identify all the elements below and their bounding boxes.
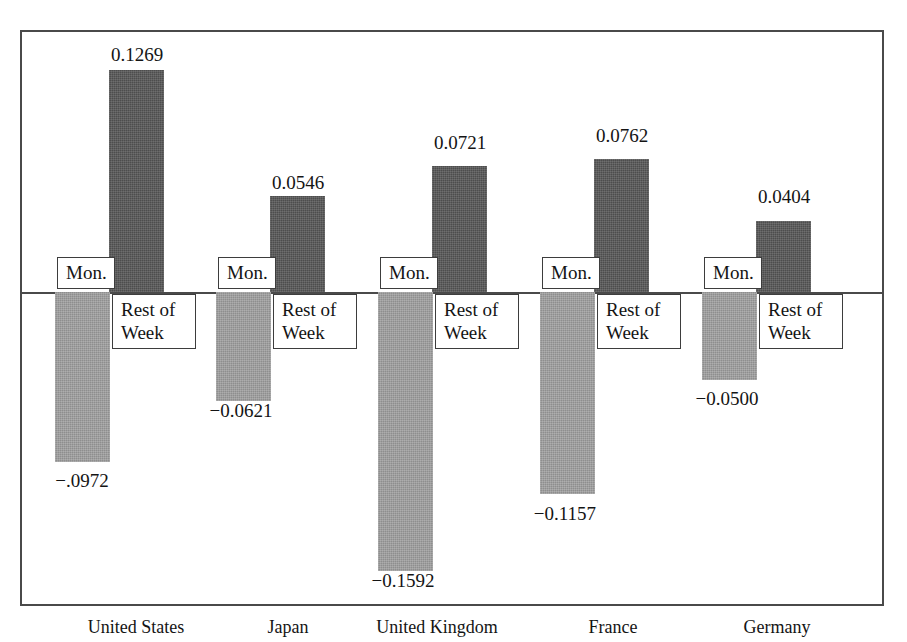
series-label-rest-of-week-3: Rest of Week [435,294,519,349]
value-label-rest-of-week-1: 0.1269 [82,44,192,66]
bar-monday-4 [540,292,595,494]
value-label-monday-4: −0.1157 [510,503,620,525]
category-label-3: United Kingdom [337,616,537,638]
bar-rest-of-week-3 [432,166,487,292]
value-label-monday-5: −0.0500 [672,388,782,410]
bar-monday-2 [216,292,271,401]
value-label-monday-2: −0.0621 [186,400,296,422]
value-label-rest-of-week-2: 0.0546 [243,172,353,194]
series-label-monday-5: Mon. [704,257,762,289]
value-label-rest-of-week-5: 0.0404 [729,186,839,208]
bar-rest-of-week-5 [756,221,811,292]
bar-monday-3 [378,292,433,571]
series-label-rest-of-week-5: Rest of Week [759,294,843,349]
figure-title-fragment [250,0,670,8]
bar-chart-figure: −.09720.1269Mon.Rest of Week−0.06210.054… [0,0,907,642]
bar-rest-of-week-1 [109,70,164,292]
value-label-rest-of-week-4: 0.0762 [567,125,677,147]
category-label-4: France [548,616,678,638]
bar-rest-of-week-2 [270,196,325,292]
bar-rest-of-week-4 [594,159,649,292]
category-label-2: Japan [228,616,348,638]
series-label-rest-of-week-1: Rest of Week [112,294,196,349]
category-label-1: United States [56,616,216,638]
value-label-monday-1: −.0972 [27,470,137,492]
series-label-monday-4: Mon. [542,257,600,289]
value-label-rest-of-week-3: 0.0721 [405,132,515,154]
series-label-monday-3: Mon. [380,257,438,289]
series-label-rest-of-week-2: Rest of Week [273,294,357,349]
category-label-5: Germany [702,616,852,638]
bar-monday-5 [702,292,757,380]
series-label-monday-1: Mon. [57,257,115,289]
series-label-monday-2: Mon. [218,257,276,289]
bar-monday-1 [55,292,110,462]
value-label-monday-3: −0.1592 [348,570,458,592]
series-label-rest-of-week-4: Rest of Week [597,294,681,349]
